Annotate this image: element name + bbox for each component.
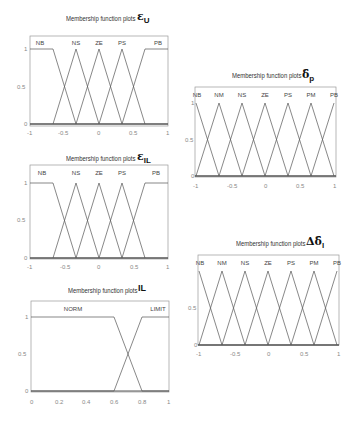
xtick: 1 [167,399,170,405]
ytick: 0 [25,388,28,394]
xtick: -1 [196,351,201,357]
xtick: -0.5 [230,351,240,357]
xtick: 0.5 [300,351,308,357]
plot-axes [0,0,359,370]
mf-label-nb: NB [196,260,204,266]
xtick: 0 [267,351,270,357]
ytick: 0 [194,342,197,348]
mf-label-ps: PS [287,260,295,266]
xtick: 0.8 [138,399,146,405]
xtick: 0.6 [110,399,118,405]
xtick: 0.2 [55,399,63,405]
mf-label-pb: PB [333,260,341,266]
mf-label-nm: NM [217,260,226,266]
xtick: 1 [337,351,340,357]
xtick: 0 [30,399,33,405]
mf-label-ns: NS [241,260,249,266]
ytick: 0.5 [188,305,196,311]
plot-delta-delta-l: Membership function plots Δδ̂l NB NM NS … [0,0,359,370]
mf-label-ze: ZE [264,260,272,266]
xtick: 0.4 [82,399,90,405]
mf-label-pm: PM [310,260,319,266]
